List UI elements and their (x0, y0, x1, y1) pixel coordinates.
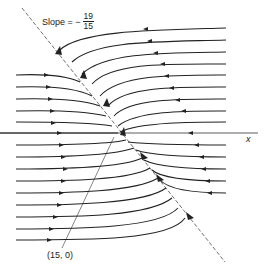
lower-right-flow-lines (128, 142, 226, 193)
slope-prefix: Slope = − (42, 17, 81, 27)
x-axis-label: x (246, 134, 251, 144)
slope-label: Slope = − 19 15 (42, 12, 94, 31)
upper-flow-lines (60, 28, 226, 132)
slope-fraction: 19 15 (83, 12, 94, 31)
point-label: (15, 0) (47, 250, 73, 260)
slope-denominator: 15 (84, 22, 93, 31)
lower-left-flow-lines (0, 75, 185, 240)
phase-plane-diagram (0, 0, 271, 271)
